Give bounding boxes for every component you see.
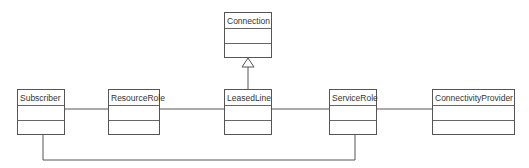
class-connectivity-provider: ConnectivityProvider: [432, 89, 515, 135]
class-subscriber: Subscriber: [17, 89, 65, 135]
assoc-subscriber-servicerole: [43, 134, 355, 160]
attributes-compartment: [109, 106, 159, 121]
class-service-role: ServiceRole: [329, 89, 377, 135]
operations-compartment: [18, 121, 64, 135]
class-resource-role: ResourceRole: [108, 89, 160, 135]
uml-class-diagram: Connection Subscriber ResourceRole Lease…: [0, 0, 529, 168]
operations-compartment: [109, 121, 159, 135]
class-name: LeasedLine: [225, 90, 271, 106]
operations-compartment: [433, 121, 514, 135]
operations-compartment: [225, 121, 271, 135]
class-leased-line: LeasedLine: [224, 89, 272, 135]
operations-compartment: [225, 44, 271, 58]
generalization-arrowhead-icon: [242, 58, 254, 67]
attributes-compartment: [433, 106, 514, 121]
class-name: ConnectivityProvider: [433, 90, 514, 106]
class-name: Subscriber: [18, 90, 64, 106]
class-name: Connection: [225, 13, 271, 29]
attributes-compartment: [330, 106, 376, 121]
class-name: ServiceRole: [330, 90, 376, 106]
class-name: ResourceRole: [109, 90, 159, 106]
attributes-compartment: [18, 106, 64, 121]
attributes-compartment: [225, 106, 271, 121]
attributes-compartment: [225, 29, 271, 44]
operations-compartment: [330, 121, 376, 135]
class-connection: Connection: [224, 12, 272, 58]
